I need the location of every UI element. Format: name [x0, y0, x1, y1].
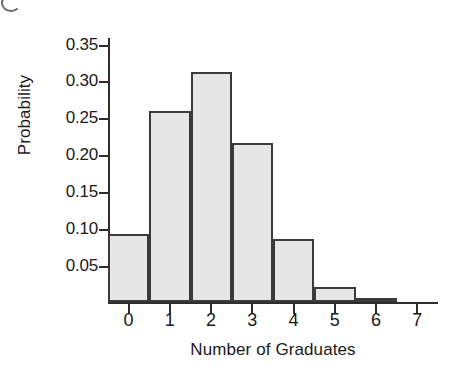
x-axis-tick-label: 1: [155, 310, 185, 330]
x-axis-tick-label: 4: [279, 310, 309, 330]
y-axis-tick-label: 0.20: [36, 146, 98, 163]
x-axis-tick-label: 3: [237, 310, 267, 330]
histogram-bar: [149, 111, 190, 302]
scan-artifact-mark: [1, 0, 21, 12]
y-axis-title: Probability: [15, 35, 35, 195]
histogram-bar: [191, 72, 232, 302]
y-axis-tick: [99, 45, 109, 47]
y-axis-tick-label: 0.10: [36, 220, 98, 237]
probability-histogram-figure: Probability 0.050.100.150.200.250.300.35…: [0, 0, 472, 392]
y-axis-tick: [99, 155, 109, 157]
y-axis-tick: [99, 266, 109, 268]
y-axis-tick-label: 0.05: [36, 257, 98, 274]
histogram-bar: [314, 287, 355, 302]
histogram-bar: [108, 234, 149, 302]
y-axis-tick: [99, 81, 109, 83]
bars-layer: [108, 38, 438, 302]
x-axis-tick-label: 6: [361, 310, 391, 330]
y-axis-tick: [99, 192, 109, 194]
y-axis-tick-label: 0.30: [36, 72, 98, 89]
y-axis-tick-label: 0.15: [36, 183, 98, 200]
x-axis-line: [108, 302, 438, 304]
histogram-bar: [273, 239, 314, 303]
x-axis-tick-label: 2: [196, 310, 226, 330]
x-axis-tick-labels: 01234567: [108, 310, 438, 334]
x-axis-title: Number of Graduates: [108, 340, 438, 360]
y-axis-tick-label: 0.25: [36, 109, 98, 126]
histogram-bar: [232, 143, 273, 303]
x-axis-tick-label: 7: [402, 310, 432, 330]
y-axis-tick: [99, 118, 109, 120]
plot-area: [108, 38, 438, 304]
y-axis-tick-labels: 0.050.100.150.200.250.300.35: [36, 0, 98, 392]
y-axis-tick-label: 0.35: [36, 36, 98, 53]
x-axis-tick-label: 5: [320, 310, 350, 330]
y-axis-tick: [99, 229, 109, 231]
histogram-bar: [356, 298, 397, 302]
x-axis-tick-label: 0: [114, 310, 144, 330]
